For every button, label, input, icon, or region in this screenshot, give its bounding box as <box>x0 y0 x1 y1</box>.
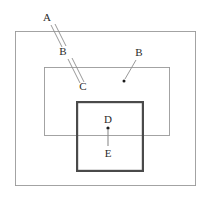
label-a: A <box>43 11 51 23</box>
diagram-canvas: A B C B D E <box>0 0 212 199</box>
label-d: D <box>104 113 112 125</box>
label-e: E <box>105 147 112 159</box>
label-b-left: B <box>59 45 66 57</box>
label-c: C <box>79 80 86 92</box>
diagram-background <box>0 0 212 199</box>
marker-dot-b-right <box>123 80 126 83</box>
diagram-svg: A B C B D E <box>0 0 212 199</box>
label-b-right: B <box>135 46 142 58</box>
